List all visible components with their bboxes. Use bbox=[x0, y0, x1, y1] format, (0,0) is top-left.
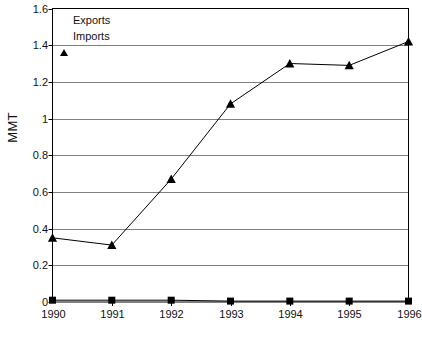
y-axis-tick-label: 1.2 bbox=[2, 77, 48, 88]
y-axis-tick-labels: 00.20.40.60.811.21.41.6 bbox=[0, 0, 48, 337]
data-point-marker bbox=[49, 297, 56, 304]
y-axis-tick-label: 0 bbox=[2, 297, 48, 308]
x-axis-tick-label: 1995 bbox=[337, 309, 361, 320]
data-point-marker bbox=[404, 37, 413, 46]
square-marker-icon bbox=[60, 16, 69, 25]
data-point-marker bbox=[226, 99, 235, 108]
legend-item-label: Imports bbox=[73, 31, 110, 42]
x-axis-tick-label: 1996 bbox=[397, 309, 421, 320]
x-axis-tick-label: 1991 bbox=[100, 309, 124, 320]
y-axis-tick-label: 1.4 bbox=[2, 40, 48, 51]
y-axis-tick-label: 0.8 bbox=[2, 150, 48, 161]
legend-item-imports: Imports bbox=[60, 29, 110, 43]
series-line-imports bbox=[53, 42, 409, 246]
legend-item-exports: Exports bbox=[60, 13, 110, 27]
x-axis-tick-label: 1990 bbox=[41, 309, 65, 320]
data-point-marker bbox=[168, 297, 175, 304]
x-axis-tick-label: 1994 bbox=[278, 309, 302, 320]
gridlines bbox=[53, 46, 409, 266]
data-series-layer bbox=[48, 37, 413, 305]
data-point-marker bbox=[227, 298, 234, 305]
y-axis-tick-label: 1 bbox=[2, 114, 48, 125]
y-axis-tick-label: 0.4 bbox=[2, 224, 48, 235]
y-axis-tick-label: 0.2 bbox=[2, 260, 48, 271]
data-point-marker bbox=[346, 298, 353, 305]
data-point-marker bbox=[108, 297, 115, 304]
y-axis-tick-label: 0.6 bbox=[2, 187, 48, 198]
data-point-marker bbox=[405, 298, 412, 305]
data-point-marker bbox=[48, 233, 57, 242]
y-axis-tick-label: 1.6 bbox=[2, 4, 48, 15]
x-axis-tick-label: 1993 bbox=[219, 309, 243, 320]
y-axis-tick-marks bbox=[49, 10, 53, 303]
x-axis-tick-label: 1992 bbox=[159, 309, 183, 320]
legend: Exports Imports bbox=[60, 13, 110, 43]
data-point-marker bbox=[286, 298, 293, 305]
line-chart: MMT 00.20.40.60.811.21.41.6 199019911992… bbox=[0, 0, 422, 337]
x-axis-tick-labels: 1990199119921993199419951996 bbox=[0, 309, 422, 329]
triangle-marker-icon bbox=[60, 32, 69, 41]
legend-item-label: Exports bbox=[73, 15, 110, 26]
